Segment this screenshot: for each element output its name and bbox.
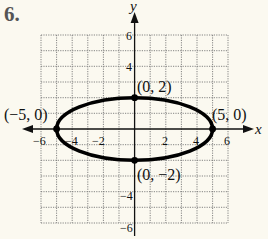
x-axis-arrow-left-icon xyxy=(22,125,33,133)
point-label-right: (5, 0) xyxy=(212,106,247,124)
y-axis-label: y xyxy=(128,0,137,14)
point-label-left: (−5, 0) xyxy=(4,106,48,124)
vertex-point-left xyxy=(53,126,60,133)
x-tick: −2 xyxy=(92,134,105,148)
y-tick: −6 xyxy=(120,221,133,235)
vertex-point-right xyxy=(209,126,216,133)
ellipse-graph: −6 −4 −2 2 4 6 6 4 −4 −6 x y (−5, 0) (5,… xyxy=(0,0,268,239)
x-axis-label: x xyxy=(254,121,262,137)
y-tick: −4 xyxy=(120,189,133,203)
y-tick: 6 xyxy=(126,29,132,43)
x-axis-arrow-right-icon xyxy=(243,125,254,133)
x-tick: 2 xyxy=(162,134,168,148)
covertex-point-bottom xyxy=(131,157,138,164)
x-tick: −6 xyxy=(33,134,46,148)
covertex-point-top xyxy=(131,94,138,101)
point-label-bottom: (0, −2) xyxy=(137,166,181,184)
y-tick: 4 xyxy=(126,60,132,74)
point-label-top: (0, 2) xyxy=(137,78,172,96)
x-tick: 6 xyxy=(224,134,230,148)
